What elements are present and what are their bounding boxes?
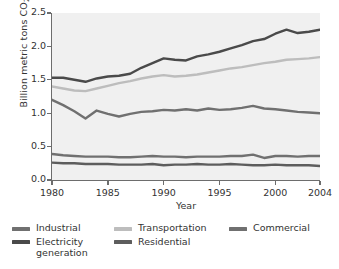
legend-row-1: Industrial Transportation Commercial (12, 222, 337, 234)
x-tick (275, 181, 276, 185)
y-tick-label: 1.5 (18, 73, 46, 84)
x-tick (107, 181, 108, 185)
legend-row-2: Electricity generation Residential (12, 236, 337, 259)
y-tick-label: 2.5 (18, 6, 46, 17)
x-tick-label: 2004 (300, 187, 339, 198)
x-tick (319, 181, 320, 185)
y-tick-label: 0.5 (18, 140, 46, 151)
legend-swatch-industrial (12, 227, 30, 231)
legend-item-electricity-generation: Electricity generation (12, 236, 114, 259)
x-tick (163, 181, 164, 185)
legend-swatch-electricity-generation (12, 240, 30, 244)
x-tick-label: 2000 (255, 187, 295, 198)
legend-label-electricity-generation: Electricity generation (36, 236, 114, 259)
legend-label-residential: Residential (138, 236, 190, 248)
legend-label-commercial: Commercial (253, 222, 310, 234)
y-tick (47, 46, 51, 47)
legend-item-transportation: Transportation (114, 222, 229, 234)
x-tick (219, 181, 220, 185)
legend-item-residential: Residential (114, 236, 229, 248)
y-tick (47, 146, 51, 147)
x-tick-label: 1980 (32, 187, 72, 198)
y-tick (47, 79, 51, 80)
y-tick-label: 2.0 (18, 40, 46, 51)
series-lines (52, 13, 320, 180)
y-axis-title-text: Billion metric tons CO (18, 2, 29, 107)
legend-item-industrial: Industrial (12, 222, 114, 234)
x-tick-label: 1995 (200, 187, 240, 198)
y-tick (47, 113, 51, 114)
co2-emissions-line-chart: Billion metric tons CO2 0.00.51.01.52.02… (0, 0, 339, 269)
x-axis-title: Year (52, 200, 320, 211)
legend-label-industrial: Industrial (36, 222, 81, 234)
series-line-transportation (52, 57, 320, 91)
series-line-industrial (52, 100, 320, 119)
series-line-electricity-generation (52, 30, 320, 82)
legend-item-commercial: Commercial (229, 222, 334, 234)
chart-legend: Industrial Transportation Commercial Ele… (12, 222, 337, 259)
legend-swatch-transportation (114, 227, 132, 231)
legend-swatch-commercial (229, 227, 247, 231)
y-tick-label: 1.0 (18, 107, 46, 118)
x-tick-label: 1985 (88, 187, 128, 198)
legend-swatch-residential (114, 240, 132, 244)
legend-label-transportation: Transportation (138, 222, 207, 234)
y-tick (47, 12, 51, 13)
x-tick (51, 181, 52, 185)
x-axis-spine (51, 180, 320, 181)
series-line-commercial (52, 154, 320, 158)
y-tick-label: 0.0 (18, 173, 46, 184)
series-line-residential (52, 163, 320, 166)
y-axis-title-subscript: 2 (23, 0, 31, 2)
x-tick-label: 1990 (144, 187, 184, 198)
